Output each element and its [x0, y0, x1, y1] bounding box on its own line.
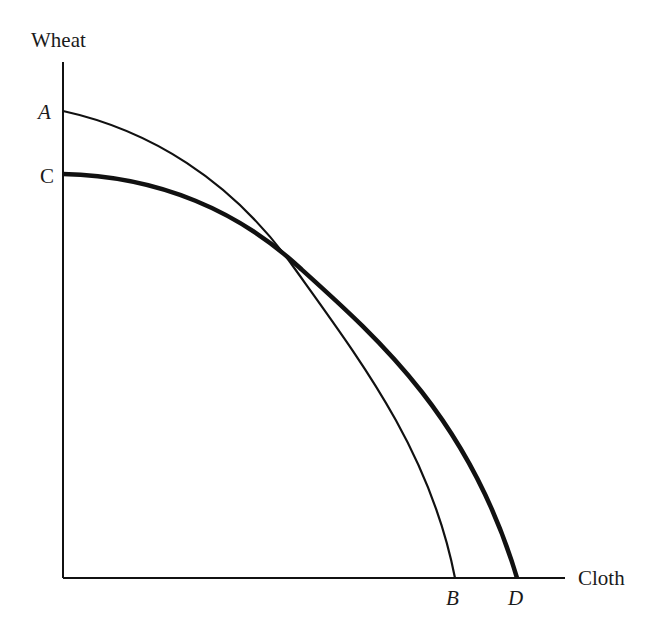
point-d-label: D: [507, 586, 523, 610]
point-c-label: C: [40, 164, 54, 188]
x-axis-label: Cloth: [578, 566, 625, 590]
y-axis-label: Wheat: [31, 28, 86, 52]
point-b-label: B: [446, 586, 459, 610]
ppf-diagram: Wheat Cloth A C B D: [0, 0, 668, 629]
curve-cd: [63, 174, 517, 578]
point-a-label: A: [36, 100, 51, 124]
